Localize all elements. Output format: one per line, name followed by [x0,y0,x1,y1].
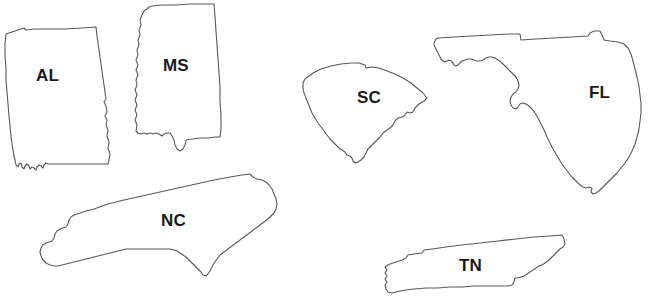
state-shape-south-carolina[interactable] [297,60,429,168]
state-shape-alabama[interactable] [4,26,112,172]
south-carolina-outline-svg [297,60,429,168]
north-carolina-path [40,174,277,276]
state-label-alabama: AL [36,67,59,84]
state-label-north-carolina: NC [161,212,186,229]
florida-path [434,31,641,194]
state-label-mississippi: MS [163,57,189,74]
south-carolina-path [303,63,427,163]
state-shape-tennessee[interactable] [366,234,628,296]
state-outline-map: AL MS SC FL NC TN [0,0,662,303]
state-shape-mississippi[interactable] [128,3,222,153]
alabama-outline-svg [4,26,112,172]
state-label-tennessee: TN [459,257,482,274]
state-label-florida: FL [589,84,610,101]
state-shape-florida[interactable] [432,30,658,198]
tennessee-outline-svg [366,234,628,296]
state-label-south-carolina: SC [357,89,381,106]
florida-outline-svg [432,30,658,198]
alabama-path [5,27,110,170]
mississippi-outline-svg [128,3,222,153]
mississippi-path [135,4,221,151]
